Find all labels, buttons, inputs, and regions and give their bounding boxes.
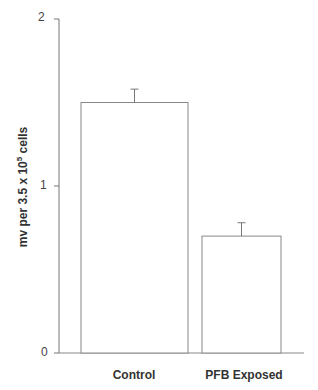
bar-pfb-exposed — [202, 236, 281, 353]
x-label-pfb-exposed: PFB Exposed — [205, 368, 282, 382]
bar-control — [81, 103, 188, 354]
y-tick-label-2: 2 — [38, 10, 45, 24]
x-label-control: Control — [113, 368, 156, 382]
chart-plot-area — [0, 0, 318, 390]
y-tick-label-0: 0 — [41, 345, 48, 359]
y-tick-label-1: 1 — [40, 178, 47, 192]
bar-chart: 2 1 0 mv per 3.5 x 105 cells Control PFB… — [0, 0, 318, 390]
